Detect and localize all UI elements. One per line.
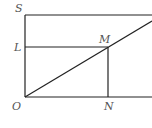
- label-L: L: [13, 41, 21, 54]
- diagram-canvas: S L M O N: [0, 0, 152, 128]
- diagonal-OM: [25, 21, 152, 97]
- label-M: M: [98, 33, 111, 46]
- label-N: N: [103, 100, 114, 113]
- label-S: S: [15, 2, 23, 15]
- label-O: O: [12, 100, 21, 113]
